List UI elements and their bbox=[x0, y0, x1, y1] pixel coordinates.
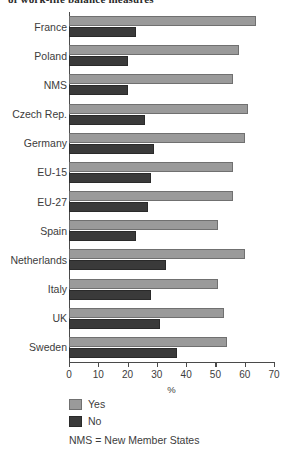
chart-row: Netherlands bbox=[0, 249, 287, 270]
bar-no-eu-15 bbox=[69, 173, 151, 183]
x-tick-label-70: 70 bbox=[259, 369, 287, 380]
bar-yes-france bbox=[69, 16, 256, 26]
chart-row: Sweden bbox=[0, 337, 287, 358]
category-label-sweden: Sweden bbox=[0, 341, 67, 353]
x-tick-50 bbox=[215, 362, 216, 367]
category-label-eu-27: EU-27 bbox=[0, 196, 67, 208]
bar-yes-eu-15 bbox=[69, 162, 233, 172]
category-label-netherlands: Netherlands bbox=[0, 254, 67, 266]
bar-no-sweden bbox=[69, 348, 177, 358]
chart-row: Spain bbox=[0, 220, 287, 241]
category-label-uk: UK bbox=[0, 312, 67, 324]
x-tick-label-30: 30 bbox=[142, 369, 172, 380]
x-tick-label-50: 50 bbox=[200, 369, 230, 380]
category-label-germany: Germany bbox=[0, 137, 67, 149]
chart-row: Czech Rep. bbox=[0, 104, 287, 125]
chart-row: Germany bbox=[0, 133, 287, 154]
bar-no-eu-27 bbox=[69, 202, 148, 212]
x-tick-70 bbox=[274, 362, 275, 367]
chart-row: France bbox=[0, 16, 287, 37]
bar-no-germany bbox=[69, 144, 154, 154]
bar-no-poland bbox=[69, 56, 128, 66]
legend-footnote: NMS = New Member States bbox=[69, 434, 199, 446]
bar-yes-netherlands bbox=[69, 249, 245, 259]
x-axis-title: % bbox=[69, 384, 274, 395]
legend-label-no: No bbox=[88, 415, 101, 428]
bar-no-spain bbox=[69, 231, 136, 241]
x-tick-label-20: 20 bbox=[113, 369, 143, 380]
bar-yes-sweden bbox=[69, 337, 227, 347]
chart-row: UK bbox=[0, 308, 287, 329]
chart-row: NMS bbox=[0, 74, 287, 95]
legend-label-yes: Yes bbox=[88, 398, 105, 411]
bar-yes-uk bbox=[69, 308, 224, 318]
chart-plot-area: FrancePolandNMSCzech Rep.GermanyEU-15EU-… bbox=[0, 12, 287, 372]
category-label-italy: Italy bbox=[0, 283, 67, 295]
chart-row: EU-27 bbox=[0, 191, 287, 212]
category-label-eu-15: EU-15 bbox=[0, 166, 67, 178]
bar-yes-spain bbox=[69, 220, 218, 230]
bar-no-netherlands bbox=[69, 260, 166, 270]
x-tick-60 bbox=[245, 362, 246, 367]
bar-yes-poland bbox=[69, 45, 239, 55]
x-tick-20 bbox=[128, 362, 129, 367]
x-tick-0 bbox=[69, 362, 70, 367]
x-tick-30 bbox=[157, 362, 158, 367]
x-tick-label-60: 60 bbox=[230, 369, 260, 380]
bar-yes-italy bbox=[69, 279, 218, 289]
x-tick-10 bbox=[98, 362, 99, 367]
bar-yes-czech-rep bbox=[69, 104, 248, 114]
bar-yes-eu-27 bbox=[69, 191, 233, 201]
x-tick-label-10: 10 bbox=[83, 369, 113, 380]
bar-no-czech-rep bbox=[69, 115, 145, 125]
bar-no-france bbox=[69, 27, 136, 37]
chart-legend: Yes No NMS = New Member States bbox=[69, 398, 279, 432]
category-label-france: France bbox=[0, 21, 67, 33]
bar-yes-nms bbox=[69, 74, 233, 84]
legend-swatch-yes bbox=[69, 399, 82, 410]
category-label-czech-rep: Czech Rep. bbox=[0, 108, 67, 120]
bar-no-italy bbox=[69, 290, 151, 300]
x-axis-line bbox=[69, 362, 274, 363]
bar-no-nms bbox=[69, 85, 128, 95]
chart-row: Poland bbox=[0, 45, 287, 66]
legend-item-yes: Yes bbox=[69, 398, 279, 413]
category-label-nms: NMS bbox=[0, 79, 67, 91]
category-label-spain: Spain bbox=[0, 225, 67, 237]
legend-item-no: No bbox=[69, 415, 279, 430]
category-label-poland: Poland bbox=[0, 50, 67, 62]
x-tick-label-0: 0 bbox=[54, 369, 84, 380]
x-tick-label-40: 40 bbox=[171, 369, 201, 380]
legend-swatch-no bbox=[69, 416, 82, 427]
bar-yes-germany bbox=[69, 133, 245, 143]
x-tick-40 bbox=[186, 362, 187, 367]
chart-title: of work-life balance measures bbox=[0, 0, 287, 5]
chart-row: EU-15 bbox=[0, 162, 287, 183]
chart-row: Italy bbox=[0, 279, 287, 300]
bar-no-uk bbox=[69, 319, 160, 329]
